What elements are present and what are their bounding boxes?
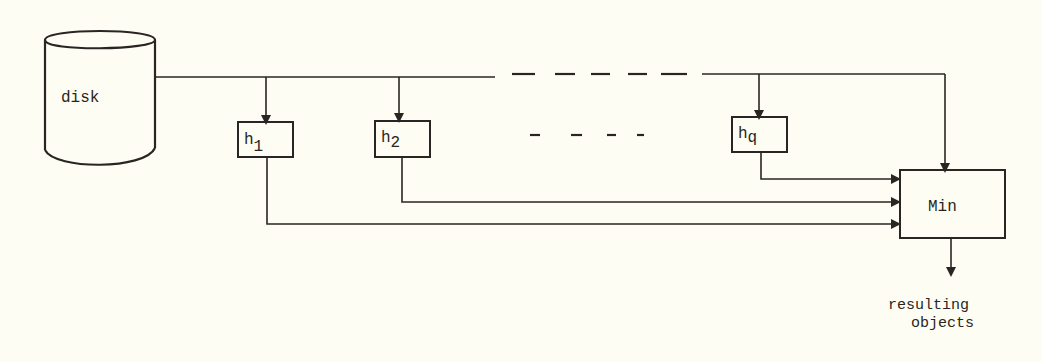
- svg-text:h1: h1: [244, 131, 263, 156]
- h2-node: h2: [375, 121, 430, 157]
- min-node: Min: [900, 170, 1005, 238]
- output-label-line1: resulting: [888, 297, 969, 314]
- output-label-line2: objects: [911, 315, 974, 332]
- h1-node: h1: [238, 122, 293, 157]
- branch-arrows: [266, 74, 759, 120]
- disk-label: disk: [61, 89, 99, 107]
- svg-text:h2: h2: [381, 129, 400, 152]
- h-to-min-connectors: [267, 152, 896, 224]
- min-label: Min: [928, 198, 957, 216]
- hash-min-diagram: disk h1 h2 hq Min: [0, 0, 1042, 362]
- svg-text:hq: hq: [738, 125, 757, 147]
- hq-node: hq: [732, 117, 787, 152]
